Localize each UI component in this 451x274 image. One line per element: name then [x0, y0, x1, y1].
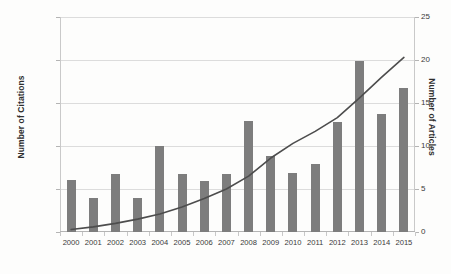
- x-tick-mark: [304, 232, 305, 236]
- y-tick-label-right: 0: [421, 227, 451, 236]
- y-tick-mark-right: [415, 146, 419, 147]
- y-tick-mark-right: [415, 60, 419, 61]
- y-tick-mark-left: [56, 146, 60, 147]
- y-axis-right-title: Number of Articles: [427, 52, 437, 182]
- y-tick-label-right: 20: [421, 55, 451, 64]
- x-tick-mark: [193, 232, 194, 236]
- y-tick-mark-left: [56, 103, 60, 104]
- y-tick-label-right: 15: [421, 98, 451, 107]
- y-tick-label-right: 5: [421, 184, 451, 193]
- x-tick-mark: [260, 232, 261, 236]
- x-tick-mark: [171, 232, 172, 236]
- y-axis-left-title: Number of Citations: [16, 52, 26, 182]
- x-tick-mark: [104, 232, 105, 236]
- x-tick-mark: [82, 232, 83, 236]
- x-tick-mark: [415, 232, 416, 236]
- y-tick-mark-right: [415, 103, 419, 104]
- chart-figure: Number of Citations Number of Articles 0…: [0, 0, 451, 274]
- x-tick-mark: [238, 232, 239, 236]
- y-tick-mark-right: [415, 17, 419, 18]
- y-tick-mark-left: [56, 60, 60, 61]
- y-tick-label-right: 10: [421, 141, 451, 150]
- y-tick-mark-right: [415, 189, 419, 190]
- x-tick-mark: [149, 232, 150, 236]
- x-tick-mark: [282, 232, 283, 236]
- x-tick-mark: [60, 232, 61, 236]
- y-tick-mark-left: [56, 189, 60, 190]
- line-series: [60, 17, 415, 232]
- x-tick-mark: [393, 232, 394, 236]
- plot-area: [60, 17, 415, 232]
- y-tick-label-right: 25: [421, 12, 451, 21]
- x-tick-mark: [127, 232, 128, 236]
- x-tick-label: 2015: [389, 238, 419, 247]
- x-tick-mark: [371, 232, 372, 236]
- x-tick-mark: [326, 232, 327, 236]
- x-tick-mark: [348, 232, 349, 236]
- y-tick-mark-left: [56, 17, 60, 18]
- x-tick-mark: [215, 232, 216, 236]
- articles-trend-line: [71, 57, 404, 229]
